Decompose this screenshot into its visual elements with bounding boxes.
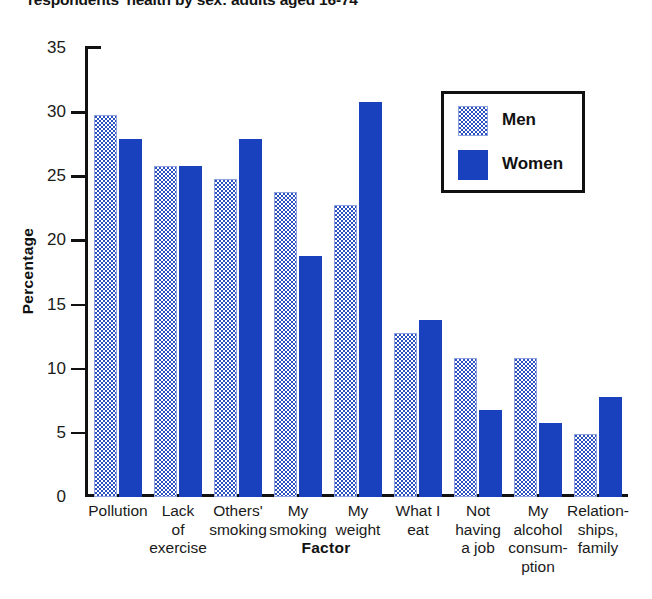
bar-women: [179, 166, 202, 497]
legend-swatch-men-icon: [458, 106, 488, 136]
x-axis-label-line: Relation-: [560, 502, 636, 521]
legend-swatch-women-icon: [458, 150, 488, 180]
bar-women: [599, 397, 622, 497]
x-axis-label-line: ships,: [560, 521, 636, 540]
bar-women: [119, 139, 142, 497]
y-axis-tick-label: 25: [20, 166, 66, 186]
bar-women: [299, 256, 322, 497]
y-axis-tick-label: 5: [20, 423, 66, 443]
bar-men: [454, 358, 477, 497]
y-axis-tick-label: 35: [20, 38, 66, 58]
y-axis-tick-label: 10: [20, 359, 66, 379]
y-axis-tick: [71, 304, 85, 307]
bar-women: [359, 102, 382, 497]
bar-men: [274, 192, 297, 497]
legend-label-men: Men: [502, 110, 536, 130]
x-axis-title: Factor: [0, 539, 652, 557]
y-axis-tick: [71, 175, 85, 178]
bar-women: [479, 410, 502, 497]
y-axis-tick-label: 30: [20, 102, 66, 122]
y-axis-tick-label: 0: [20, 487, 66, 507]
bar-men: [514, 358, 537, 497]
legend-label-women: Women: [502, 154, 563, 174]
y-axis-tick: [71, 432, 85, 435]
bar-men: [574, 434, 597, 497]
bar-men: [334, 205, 357, 497]
bar-women: [539, 423, 562, 497]
y-axis-tick: [71, 239, 85, 242]
bar-chart-figure: respondents' health by sex: adults aged …: [0, 0, 652, 599]
bar-women: [419, 320, 442, 497]
bar-men: [154, 166, 177, 497]
y-axis-title: Percentage: [19, 196, 37, 346]
y-axis-tick: [71, 368, 85, 371]
chart-title: respondents' health by sex: adults aged …: [28, 0, 628, 9]
chart-legend: Men Women: [441, 91, 585, 193]
y-axis-tick: [71, 111, 85, 114]
bar-men: [394, 333, 417, 497]
x-axis-label-line: ption: [500, 558, 576, 577]
bar-women: [239, 139, 262, 497]
bar-men: [214, 179, 237, 497]
bar-men: [94, 115, 117, 497]
